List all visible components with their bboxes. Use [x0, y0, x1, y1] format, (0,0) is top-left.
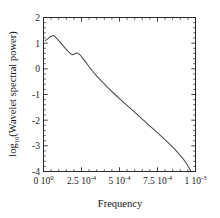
- y-axis-title: log10(Wavelet spectral power): [7, 31, 20, 157]
- x-axis-title: Frequency: [98, 198, 143, 209]
- y-tick-label: 2: [35, 13, 40, 23]
- x-tick-label: 0 100: [34, 174, 55, 185]
- x-tick-label: 1 10-3: [184, 174, 207, 185]
- y-tick-label: -3: [32, 141, 40, 151]
- x-tick-labels: 0 1002.5 10-45 10-47.5 10-41 10-3: [34, 174, 208, 185]
- x-tick-label: 5 10-4: [108, 174, 131, 185]
- y-tick-labels: 210-1-2-3-4: [32, 13, 40, 177]
- chart-figure: 210-1-2-3-4 0 1002.5 10-45 10-47.5 10-41…: [0, 0, 220, 218]
- y-tick-label: 1: [35, 39, 40, 49]
- y-tick-label: -1: [32, 90, 40, 100]
- y-tick-label: 0: [35, 64, 40, 74]
- y-tick-label: -2: [32, 116, 40, 126]
- wavelet-spectrum-chart: 210-1-2-3-4 0 1002.5 10-45 10-47.5 10-41…: [0, 0, 220, 218]
- x-tick-label: 2.5 10-4: [67, 174, 97, 185]
- x-tick-label: 7.5 10-4: [143, 174, 173, 185]
- minor-tick-group: [44, 18, 196, 172]
- major-tick-group: [44, 18, 196, 172]
- plot-frame: [44, 18, 196, 172]
- data-series-line: [45, 35, 190, 170]
